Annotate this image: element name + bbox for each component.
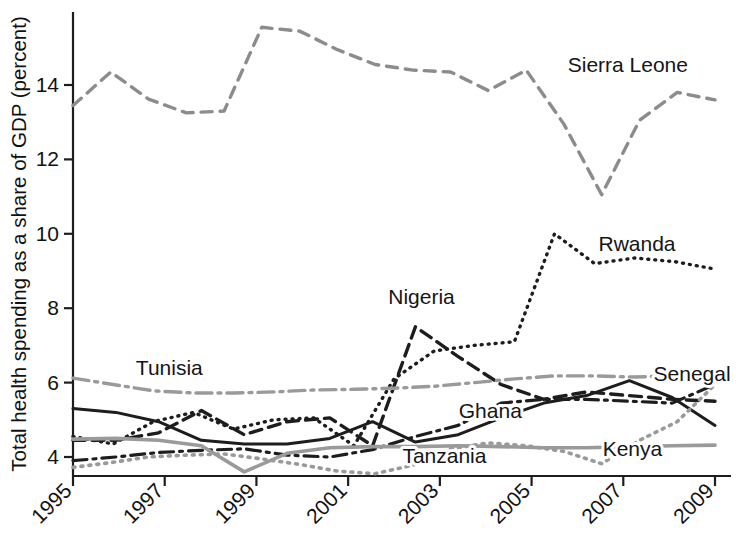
series-label-nigeria: Nigeria [388, 285, 455, 308]
x-axis-tick-label: 1995 [27, 479, 76, 528]
y-axis-tick-label: 12 [36, 147, 59, 170]
series-label-tunisia: Tunisia [136, 356, 203, 379]
y-axis-tick-label: 6 [47, 371, 59, 394]
chart-container: 4681012141995199719992001200320052007200… [0, 0, 736, 542]
x-axis-tick-label: 2001 [302, 479, 351, 528]
y-axis-tick-label: 14 [36, 73, 60, 96]
y-axis-title: Total health spending as a share of GDP … [7, 16, 30, 471]
series-label-senegal: Senegal [654, 362, 731, 385]
x-axis-tick-label: 2005 [485, 479, 534, 528]
y-axis-tick-label: 4 [47, 445, 59, 468]
y-axis-title-text: Total health spending as a share of GDP … [7, 16, 30, 471]
series-label-tanzania: Tanzania [402, 444, 486, 467]
line-chart: 4681012141995199719992001200320052007200… [0, 0, 736, 542]
y-axis-tick-label: 8 [47, 296, 59, 319]
x-axis-tick-label: 2003 [393, 479, 442, 528]
y-axis-tick-label: 10 [36, 222, 59, 245]
x-axis-tick-label: 2007 [577, 479, 626, 528]
x-axis-tick-label: 1999 [210, 479, 259, 528]
x-axis-tick-label: 2009 [669, 479, 718, 528]
series-label-ghana: Ghana [459, 399, 522, 422]
series-label-rwanda: Rwanda [599, 232, 676, 255]
series-label-sierra-leone: Sierra Leone [568, 53, 688, 76]
x-axis-tick-label: 1997 [118, 479, 167, 528]
series-line-rwanda [73, 234, 715, 446]
series-label-kenya: Kenya [603, 437, 663, 460]
